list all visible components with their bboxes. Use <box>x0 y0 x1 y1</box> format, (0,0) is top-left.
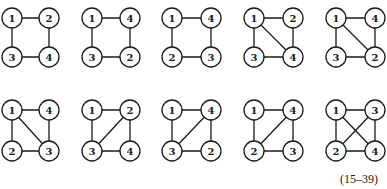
graph-node: 1 <box>244 100 264 120</box>
graph-node: 3 <box>82 141 102 161</box>
graph-node: 1 <box>2 100 22 120</box>
graph-7: 1234 <box>82 100 140 161</box>
graph-node: 1 <box>162 100 182 120</box>
graph-3: 1423 <box>162 8 221 67</box>
node-label: 2 <box>46 13 53 24</box>
graph-node: 2 <box>244 141 264 161</box>
node-label: 1 <box>333 105 340 116</box>
graph-node: 1 <box>326 8 346 28</box>
graph-node: 3 <box>365 100 385 120</box>
node-label: 1 <box>9 13 16 24</box>
node-label: 2 <box>290 13 297 24</box>
graph-node: 3 <box>244 47 264 67</box>
graph-node: 3 <box>2 47 22 67</box>
graph-node: 1 <box>2 8 22 28</box>
graph-node: 4 <box>283 100 303 120</box>
graph-node: 4 <box>120 8 140 28</box>
graph-node: 2 <box>120 47 140 67</box>
node-label: 1 <box>169 105 176 116</box>
node-label: 1 <box>89 105 96 116</box>
node-label: 2 <box>208 146 215 157</box>
node-label: 3 <box>169 146 176 157</box>
node-label: 2 <box>333 146 340 157</box>
node-label: 4 <box>208 105 215 116</box>
graph-1: 1234 <box>2 8 59 67</box>
node-label: 2 <box>127 105 134 116</box>
node-label: 4 <box>127 146 134 157</box>
graph-node: 4 <box>39 47 59 67</box>
node-label: 4 <box>290 52 297 63</box>
node-label: 1 <box>251 105 258 116</box>
graph-node: 2 <box>201 141 221 161</box>
graph-9: 1423 <box>244 100 303 161</box>
node-label: 3 <box>290 146 297 157</box>
graph-node: 3 <box>326 47 346 67</box>
node-label: 1 <box>9 105 16 116</box>
graph-node: 2 <box>365 47 385 67</box>
node-label: 3 <box>251 52 258 63</box>
graph-10: 1324 <box>326 100 385 161</box>
node-label: 1 <box>169 13 176 24</box>
graph-node: 3 <box>162 141 182 161</box>
graph-node: 4 <box>283 47 303 67</box>
graph-node: 2 <box>162 47 182 67</box>
node-label: 2 <box>127 52 134 63</box>
node-label: 1 <box>89 13 96 24</box>
graph-node: 1 <box>244 8 264 28</box>
graph-node: 4 <box>365 8 385 28</box>
node-label: 3 <box>333 52 340 63</box>
node-label: 4 <box>127 13 134 24</box>
graph-node: 3 <box>39 141 59 161</box>
graph-node: 1 <box>162 8 182 28</box>
node-label: 3 <box>372 105 379 116</box>
graph-node: 3 <box>82 47 102 67</box>
graph-node: 3 <box>201 47 221 67</box>
graph-node: 4 <box>201 100 221 120</box>
graph-5: 1432 <box>326 8 385 67</box>
node-label: 3 <box>46 146 53 157</box>
graph-node: 1 <box>326 100 346 120</box>
node-label: 4 <box>208 13 215 24</box>
graph-node: 2 <box>283 8 303 28</box>
graph-4: 1234 <box>244 8 303 67</box>
node-label: 3 <box>208 52 215 63</box>
graph-node: 2 <box>39 8 59 28</box>
node-label: 4 <box>46 52 53 63</box>
graph-node: 4 <box>39 100 59 120</box>
graph-node: 2 <box>120 100 140 120</box>
node-label: 3 <box>89 146 96 157</box>
graph-node: 4 <box>120 141 140 161</box>
graph-node: 1 <box>82 100 102 120</box>
node-label: 4 <box>372 146 379 157</box>
graph-8: 1432 <box>162 100 221 161</box>
node-label: 3 <box>9 52 16 63</box>
node-label: 4 <box>290 105 297 116</box>
graph-diagram-figure: 1234143214231234143214231234143214231324 <box>0 0 387 189</box>
graph-node: 3 <box>283 141 303 161</box>
graph-node: 4 <box>365 141 385 161</box>
node-label: 4 <box>46 105 53 116</box>
node-label: 2 <box>251 146 258 157</box>
node-label: 2 <box>169 52 176 63</box>
node-label: 2 <box>372 52 379 63</box>
graph-node: 2 <box>2 141 22 161</box>
graph-2: 1432 <box>82 8 140 67</box>
node-label: 1 <box>333 13 340 24</box>
graph-node: 1 <box>82 8 102 28</box>
node-label: 4 <box>372 13 379 24</box>
figure-caption: (15–39) <box>340 172 378 187</box>
graph-6: 1423 <box>2 100 59 161</box>
node-label: 1 <box>251 13 258 24</box>
node-label: 3 <box>89 52 96 63</box>
graph-node: 2 <box>326 141 346 161</box>
graph-node: 4 <box>201 8 221 28</box>
node-label: 2 <box>9 146 16 157</box>
